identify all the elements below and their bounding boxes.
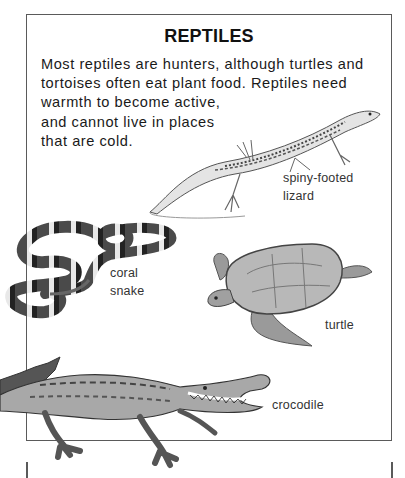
coral-snake-illustration — [5, 218, 180, 318]
frame-tick-right — [391, 462, 393, 478]
intro-line: tortoises often eat plant food. Reptiles… — [41, 74, 364, 93]
page-title: REPTILES — [26, 26, 392, 47]
snake-label: coral snake — [110, 264, 144, 300]
intro-line: Most reptiles are hunters, although turt… — [41, 55, 364, 74]
lizard-label: spiny-footed lizard — [283, 169, 354, 205]
crocodile-illustration — [0, 355, 275, 465]
crocodile-label: crocodile — [272, 396, 324, 414]
turtle-label: turtle — [325, 316, 354, 334]
turtle-illustration — [202, 242, 377, 357]
